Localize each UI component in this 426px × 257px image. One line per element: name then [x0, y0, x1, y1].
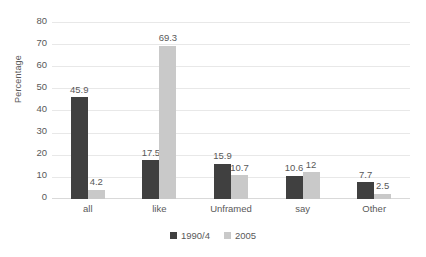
x-axis-category-labels: alllikeUnframedsayOther — [52, 203, 410, 214]
bar-groups: 45.94.217.569.315.910.710.6127.72.5 — [52, 22, 410, 199]
bar-group: 45.94.2 — [52, 22, 124, 199]
legend-item-1990[interactable]: 1990/4 — [170, 231, 210, 241]
bar-wrapper: 2.5 — [374, 22, 391, 199]
bar-wrapper: 7.7 — [357, 22, 374, 199]
bar-wrapper: 10.7 — [231, 22, 248, 199]
y-tick-label: 20 — [21, 148, 47, 158]
bar-value-label: 7.7 — [359, 170, 372, 180]
bar[interactable] — [374, 194, 391, 200]
bar-wrapper: 45.9 — [71, 22, 88, 199]
bar-value-label: 2.5 — [376, 181, 389, 191]
y-tick-label: 40 — [21, 104, 47, 114]
plot-area: 45.94.217.569.315.910.710.6127.72.5 — [52, 22, 410, 199]
bar-value-label: 15.9 — [213, 151, 232, 161]
category-label: Other — [338, 203, 410, 214]
y-tick-label: 50 — [21, 82, 47, 92]
category-label: Unframed — [195, 203, 267, 214]
bar[interactable] — [303, 172, 320, 199]
category-label: all — [52, 203, 124, 214]
bar-value-label: 45.9 — [70, 85, 89, 95]
bar[interactable] — [142, 160, 159, 199]
y-tick-label: 10 — [21, 170, 47, 180]
category-label: like — [124, 203, 196, 214]
bar-value-label: 17.5 — [142, 148, 161, 158]
bar-wrapper: 69.3 — [159, 22, 176, 199]
bar-group: 15.910.7 — [195, 22, 267, 199]
y-tick-label: 30 — [21, 126, 47, 136]
legend-swatch-icon — [224, 232, 231, 239]
bar-value-label: 4.2 — [90, 177, 103, 187]
bar-wrapper: 17.5 — [142, 22, 159, 199]
bar[interactable] — [71, 97, 88, 199]
bar[interactable] — [231, 175, 248, 199]
bar-pair: 17.569.3 — [124, 22, 196, 199]
bar-wrapper: 15.9 — [214, 22, 231, 199]
bar-group: 17.569.3 — [124, 22, 196, 199]
bar-wrapper: 4.2 — [88, 22, 105, 199]
bar-value-label: 10.7 — [230, 163, 249, 173]
bar[interactable] — [214, 164, 231, 199]
legend-label: 1990/4 — [181, 231, 210, 241]
y-tick-label: 80 — [21, 16, 47, 26]
bar-pair: 10.612 — [267, 22, 339, 199]
bar-chart: Percentage 80 70 60 50 40 30 20 10 0 45.… — [0, 0, 426, 257]
legend-label: 2005 — [235, 231, 256, 241]
bar-pair: 45.94.2 — [52, 22, 124, 199]
bar-value-label: 12 — [306, 160, 317, 170]
bar-group: 7.72.5 — [338, 22, 410, 199]
bar-wrapper: 12 — [303, 22, 320, 199]
y-tick-label: 70 — [21, 38, 47, 48]
y-tick-label: 0 — [21, 192, 47, 202]
legend-swatch-icon — [170, 232, 177, 239]
legend-item-2005[interactable]: 2005 — [224, 231, 256, 241]
bar[interactable] — [88, 190, 105, 199]
bar-pair: 7.72.5 — [338, 22, 410, 199]
y-tick-label: 60 — [21, 60, 47, 70]
bar-value-label: 10.6 — [285, 163, 304, 173]
bar[interactable] — [159, 46, 176, 199]
bar[interactable] — [357, 182, 374, 199]
bar-value-label: 69.3 — [159, 33, 178, 43]
bar-wrapper: 10.6 — [286, 22, 303, 199]
bar-group: 10.612 — [267, 22, 339, 199]
bar-pair: 15.910.7 — [195, 22, 267, 199]
category-label: say — [267, 203, 339, 214]
bar[interactable] — [286, 176, 303, 200]
chart-legend: 1990/4 2005 — [0, 231, 426, 241]
